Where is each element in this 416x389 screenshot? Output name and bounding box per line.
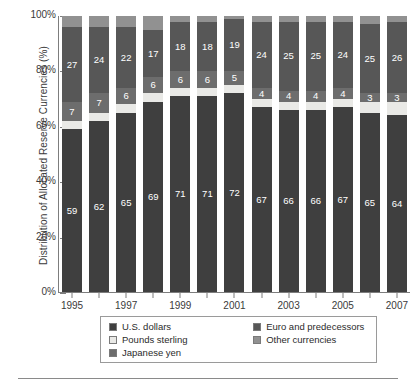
bar-segment[interactable]: 5 [224, 71, 244, 85]
bar-segment[interactable]: 24 [252, 22, 272, 88]
bar-segment[interactable]: 25 [306, 22, 326, 91]
x-axis-tick-mark [126, 293, 127, 298]
bar-segment[interactable]: 4 [279, 91, 299, 102]
bar-1999[interactable]: 18671 [170, 16, 190, 292]
bar-value-label: 69 [148, 192, 159, 202]
legend-item[interactable]: Pounds sterling [109, 334, 253, 346]
bar-value-label: 5 [232, 73, 237, 83]
x-axis-tick-label: 2005 [332, 300, 354, 311]
bar-segment[interactable]: 24 [89, 27, 109, 93]
bar-segment[interactable]: 7 [89, 93, 109, 112]
bar-segment[interactable] [279, 102, 299, 110]
bar-segment[interactable]: 69 [143, 102, 163, 292]
bar-segment[interactable] [89, 113, 109, 121]
bar-value-label: 17 [148, 49, 159, 59]
bar-segment[interactable]: 4 [333, 88, 353, 99]
bar-value-label: 71 [175, 189, 186, 199]
bar-2003[interactable]: 25466 [279, 16, 299, 292]
plot-area: 0%20%40%60%80%100% 277592476222665176691… [58, 16, 410, 293]
bar-segment[interactable] [116, 104, 136, 112]
bar-segment[interactable]: 71 [197, 96, 217, 292]
bar-segment[interactable]: 64 [387, 115, 407, 292]
bar-2006[interactable]: 25365 [360, 16, 380, 292]
bar-value-label: 66 [283, 196, 294, 206]
bar-segment[interactable]: 22 [116, 27, 136, 88]
x-axis-tick-label: 2007 [386, 300, 408, 311]
bar-segment[interactable]: 3 [360, 93, 380, 101]
bar-segment[interactable] [116, 16, 136, 27]
bar-value-label: 4 [286, 91, 291, 101]
bar-segment[interactable]: 7 [62, 102, 82, 121]
bar-segment[interactable]: 6 [116, 88, 136, 105]
x-axis-tick-label: 2001 [223, 300, 245, 311]
bar-segment[interactable] [89, 16, 109, 27]
bar-segment[interactable] [306, 102, 326, 110]
bar-value-label: 6 [178, 75, 183, 85]
bar-segment[interactable]: 3 [387, 93, 407, 101]
bar-segment[interactable]: 18 [197, 22, 217, 72]
bar-segment[interactable]: 4 [306, 91, 326, 102]
bar-1997[interactable]: 22665 [116, 16, 136, 292]
footer-rule [18, 378, 398, 379]
legend-label: Japanese yen [122, 348, 181, 358]
bar-segment[interactable]: 6 [197, 71, 217, 88]
bar-value-label: 22 [121, 53, 132, 63]
bar-segment[interactable]: 62 [89, 121, 109, 292]
x-axis-tick-mark [342, 293, 343, 298]
bar-segment[interactable]: 17 [143, 30, 163, 77]
bar-2005[interactable]: 24467 [333, 16, 353, 292]
bar-segment[interactable] [143, 16, 163, 30]
bar-2000[interactable]: 18671 [197, 16, 217, 292]
bar-value-label: 24 [337, 50, 348, 60]
bar-segment[interactable]: 19 [224, 19, 244, 71]
x-axis-tick-2007: 2007 [387, 293, 407, 319]
bar-segment[interactable] [62, 121, 82, 129]
bar-segment[interactable] [252, 99, 272, 107]
bar-segment[interactable]: 6 [143, 77, 163, 94]
bar-segment[interactable]: 67 [252, 107, 272, 292]
bar-segment[interactable]: 24 [333, 22, 353, 88]
bar-1998[interactable]: 17669 [143, 16, 163, 292]
bar-segment[interactable]: 59 [62, 129, 82, 292]
legend-column-left: U.S. dollarsPounds sterlingJapanese yen [109, 321, 253, 359]
bar-2001[interactable]: 19572 [224, 16, 244, 292]
x-axis-tick-mark [153, 293, 154, 298]
bar-segment[interactable]: 65 [360, 113, 380, 292]
bar-segment[interactable]: 4 [252, 88, 272, 99]
bar-segment[interactable]: 72 [224, 93, 244, 292]
bar-segment[interactable]: 66 [279, 110, 299, 292]
bar-segment[interactable] [360, 16, 380, 24]
bar-segment[interactable] [387, 102, 407, 116]
bar-segment[interactable]: 67 [333, 107, 353, 292]
bar-segment[interactable] [197, 88, 217, 96]
bar-value-label: 6 [124, 91, 129, 101]
bar-segment[interactable] [224, 85, 244, 93]
legend-item[interactable]: Euro and predecessors [253, 321, 370, 333]
bar-1996[interactable]: 24762 [89, 16, 109, 292]
bar-2002[interactable]: 24467 [252, 16, 272, 292]
x-axis-tick-mark [396, 293, 397, 298]
bar-segment[interactable] [143, 93, 163, 101]
legend-item[interactable]: U.S. dollars [109, 321, 253, 333]
bar-segment[interactable]: 6 [170, 71, 190, 88]
bar-segment[interactable]: 27 [62, 27, 82, 102]
bar-segment[interactable]: 25 [360, 24, 380, 93]
bar-segment[interactable]: 26 [387, 22, 407, 94]
bar-segment[interactable] [333, 99, 353, 107]
bar-segment[interactable] [62, 16, 82, 27]
bar-2004[interactable]: 25466 [306, 16, 326, 292]
bar-segment[interactable]: 18 [170, 22, 190, 72]
bar-segment[interactable] [170, 88, 190, 96]
x-axis-tick-mark [315, 293, 316, 298]
bar-value-label: 65 [365, 198, 376, 208]
bar-segment[interactable]: 66 [306, 110, 326, 292]
bar-2007[interactable]: 26364 [387, 16, 407, 292]
bar-segment[interactable]: 71 [170, 96, 190, 292]
legend-item[interactable]: Japanese yen [109, 347, 253, 359]
bar-segment[interactable]: 25 [279, 22, 299, 91]
bar-segment[interactable] [360, 102, 380, 113]
legend-item[interactable]: Other currencies [253, 334, 370, 346]
bar-1995[interactable]: 27759 [62, 16, 82, 292]
bar-segment[interactable]: 65 [116, 113, 136, 292]
y-axis-tick-label: 60% [36, 120, 56, 131]
